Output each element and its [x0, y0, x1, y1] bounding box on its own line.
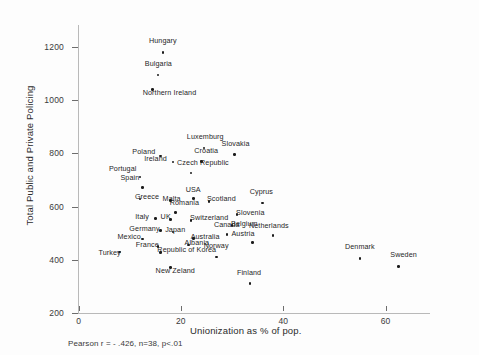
y-tick-800	[72, 153, 78, 154]
data-point-label: Romania	[170, 199, 199, 207]
data-point[interactable]	[272, 234, 275, 237]
data-point-label: Slovakia	[222, 140, 250, 148]
data-point[interactable]	[172, 161, 175, 164]
data-point-label: Ireland	[144, 155, 167, 163]
data-point-label: Croatia	[194, 147, 218, 155]
chart-figure: 20040060080010001200 0204060 HungaryBulg…	[0, 0, 479, 355]
x-tick-label-60: 60	[366, 316, 406, 326]
scatter-plot-area: 20040060080010001200 0204060 HungaryBulg…	[0, 0, 479, 355]
x-tick-label-0: 0	[59, 316, 99, 326]
data-point-label: Turkey	[98, 249, 120, 257]
x-axis-title: Unionization as % of pop.	[190, 325, 301, 336]
y-tick-400	[72, 260, 78, 261]
y-tick-600	[72, 207, 78, 208]
data-point[interactable]	[359, 257, 362, 260]
data-point-label: Finland	[237, 269, 261, 277]
x-tick-60	[386, 306, 387, 311]
data-point[interactable]	[157, 74, 160, 77]
data-point-label: Japan	[165, 226, 185, 234]
x-tick-0	[79, 306, 80, 311]
data-point-label: Norway	[204, 242, 229, 250]
data-point-label: France	[136, 241, 159, 249]
data-point[interactable]	[141, 186, 144, 189]
data-point-label: Canada	[214, 221, 240, 229]
data-point-label: Slovenia	[236, 209, 264, 217]
y-axis-spine	[78, 25, 79, 314]
data-point[interactable]	[174, 211, 177, 214]
data-point[interactable]	[162, 51, 165, 54]
data-point[interactable]	[226, 233, 229, 236]
data-point[interactable]	[249, 282, 252, 285]
y-tick-label-200: 200	[20, 308, 64, 318]
x-tick-40	[283, 306, 284, 311]
data-point[interactable]	[397, 265, 400, 268]
data-point-label: Luxemburg	[187, 133, 224, 141]
y-axis-title: Total Public and Private Policing	[24, 41, 35, 271]
data-point[interactable]	[261, 202, 264, 205]
data-point-label: Austria	[231, 230, 254, 238]
data-point[interactable]	[233, 153, 236, 156]
data-point-label: Cyprus	[250, 188, 273, 196]
data-point-label: USA	[186, 186, 201, 194]
data-point-label: Scotland	[207, 195, 236, 203]
data-point[interactable]	[154, 217, 157, 220]
data-point-label: Hungary	[149, 37, 177, 45]
x-axis-spine	[78, 313, 430, 314]
data-point-label: Denmark	[345, 243, 375, 251]
data-point[interactable]	[215, 256, 218, 259]
x-tick-20	[181, 306, 182, 311]
data-point-label: Czech Republic	[177, 159, 229, 167]
data-point-label: Netherlands	[249, 222, 289, 230]
data-point-label: Italy	[135, 213, 149, 221]
statistics-annotation: Pearson r = - .426, n=38, p<.01	[68, 339, 183, 348]
data-point-label: Spain	[120, 174, 139, 182]
data-point-label: Greece	[135, 193, 159, 201]
data-point[interactable]	[251, 241, 254, 244]
y-tick-1000	[72, 100, 78, 101]
y-tick-1200	[72, 47, 78, 48]
data-point-label: New Zeland	[156, 267, 195, 275]
data-point-label: Sweden	[390, 251, 417, 259]
data-point-label: UK	[161, 213, 171, 221]
data-point-label: Portugal	[109, 165, 137, 173]
data-point-label: Northern Ireland	[143, 89, 197, 97]
data-point-label: Bulgaria	[145, 60, 172, 68]
data-point[interactable]	[190, 172, 193, 175]
y-tick-200	[72, 313, 78, 314]
